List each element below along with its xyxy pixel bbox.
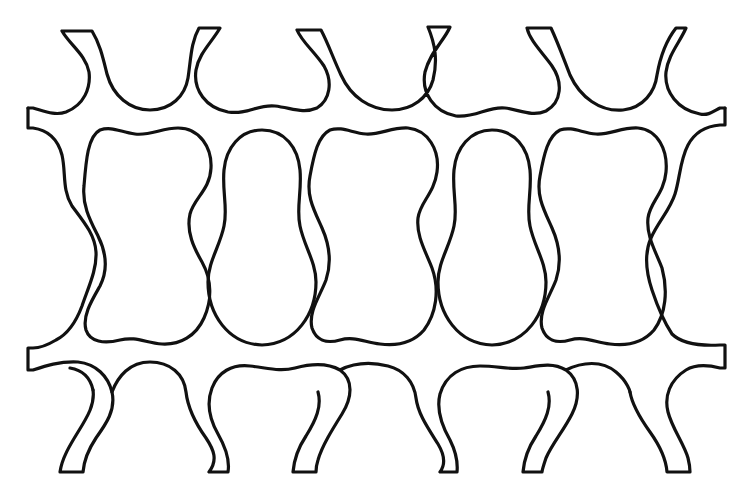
cell-3 [309, 128, 438, 345]
cell-2 [208, 130, 316, 345]
bottom-contour [70, 362, 630, 472]
cell-4 [438, 130, 546, 345]
top-contour [28, 27, 725, 116]
cell-5 [539, 128, 666, 345]
left-contour [28, 108, 113, 472]
right-contour [630, 108, 725, 472]
lattice [0, 0, 754, 491]
cell-1 [84, 128, 211, 344]
